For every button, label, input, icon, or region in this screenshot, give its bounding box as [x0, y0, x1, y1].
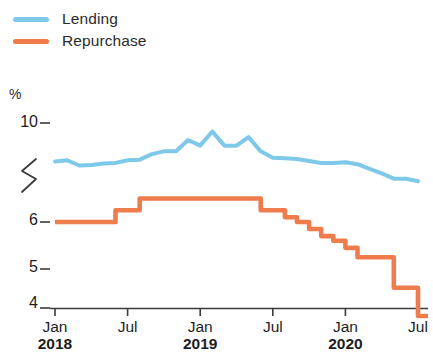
x-tick-label: Jul: [88, 318, 168, 335]
x-tick-year: 2020: [305, 335, 385, 352]
x-tick-month: Jul: [378, 318, 433, 335]
axis-break-squiggle-icon: [22, 159, 36, 192]
x-tick-label: Jan2020: [305, 318, 385, 352]
x-tick-label: Jul: [233, 318, 313, 335]
x-tick-month: Jan: [305, 318, 385, 335]
series-line-lending: [55, 132, 418, 182]
x-tick-label: Jan2019: [160, 318, 240, 352]
series-line-repurchase: [55, 199, 428, 317]
plot-area: % 10 6 5 4 Jan2018JulJan2019JulJan2020Ju…: [0, 0, 433, 357]
chart-container: Lending Repurchase % 10 6 5 4: [0, 0, 433, 357]
y-tick-label-5: 5: [4, 258, 38, 276]
x-tick-year: 2018: [15, 335, 95, 352]
x-tick-month: Jan: [15, 318, 95, 335]
x-tick-label: Jul: [378, 318, 433, 335]
y-axis-ticks: [40, 123, 50, 308]
y-tick-label-6: 6: [4, 211, 38, 229]
chart-svg: [0, 0, 433, 357]
x-tick-year: 2019: [160, 335, 240, 352]
x-tick-month: Jul: [233, 318, 313, 335]
x-tick-month: Jan: [160, 318, 240, 335]
y-axis-unit-label: %: [9, 86, 21, 102]
x-tick-month: Jul: [88, 318, 168, 335]
x-tick-label: Jan2018: [15, 318, 95, 352]
y-tick-label-10: 10: [4, 113, 38, 131]
y-tick-label-4: 4: [4, 294, 38, 312]
